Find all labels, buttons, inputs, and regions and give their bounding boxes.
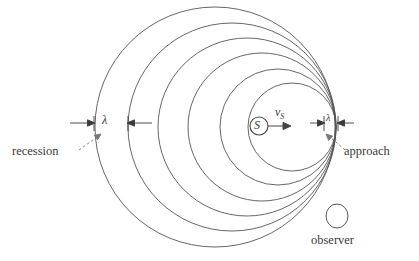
- observer-label: observer: [311, 234, 354, 247]
- diagram-canvas: recession approach observer λ λ S vS: [0, 0, 419, 261]
- wavelength-left-label: λ: [102, 114, 107, 126]
- approach-label: approach: [344, 145, 390, 158]
- recession-leader-line: [79, 134, 101, 150]
- source-velocity-label: vS: [275, 106, 284, 121]
- wavefront-3: [158, 38, 336, 216]
- wavefront-diagram-svg: [0, 0, 419, 261]
- source-velocity-subscript: S: [280, 112, 284, 121]
- wavelength-right-measure: [310, 116, 354, 131]
- wavelength-left-measure: [70, 116, 152, 131]
- wavefront-4: [188, 53, 336, 201]
- recession-label: recession: [12, 145, 59, 158]
- wavefront-1-outer: [95, 7, 335, 247]
- wavefront-2: [128, 23, 336, 231]
- source-velocity-arrow: [268, 122, 291, 129]
- source-label: S: [254, 119, 260, 131]
- observer-circle: [326, 204, 348, 228]
- wavelength-right-label: λ: [326, 113, 330, 123]
- wavefront-group: [95, 7, 336, 247]
- wavefront-6-inner: [248, 83, 336, 171]
- wavefront-5: [220, 69, 336, 185]
